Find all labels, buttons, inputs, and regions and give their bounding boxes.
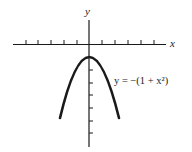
- x-axis-label: x: [170, 38, 175, 49]
- y-axis-label: y: [85, 6, 90, 17]
- equation-label: y = −(1 + x²): [114, 76, 168, 87]
- x-axis-ticks: [26, 40, 154, 45]
